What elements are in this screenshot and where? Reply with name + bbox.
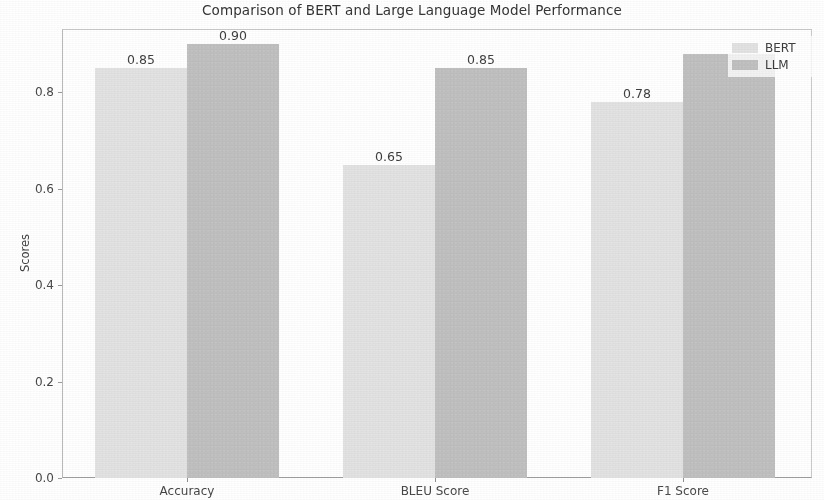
x-tick-label-f1-score: F1 Score <box>657 484 709 498</box>
x-tick-mark-accuracy <box>187 478 188 482</box>
bar-value-llm-accuracy: 0.90 <box>219 28 247 43</box>
legend-label-bert: BERT <box>765 41 796 55</box>
bar-llm-accuracy[interactable] <box>187 44 279 478</box>
y-tick-label-0: 0.0 <box>8 471 54 485</box>
y-tick-mark-0 <box>58 478 62 479</box>
bar-llm-bleu-score[interactable] <box>435 68 527 478</box>
y-tick-label-4: 0.8 <box>8 85 54 99</box>
x-tick-mark-f1-score <box>683 478 684 482</box>
figure-canvas: Comparison of BERT and Large Language Mo… <box>0 0 824 500</box>
y-axis-title: Scores <box>18 234 32 272</box>
x-tick-label-bleu-score: BLEU Score <box>401 484 470 498</box>
legend-swatch-llm-icon <box>732 60 758 70</box>
bar-value-llm-bleu-score: 0.85 <box>467 52 495 67</box>
y-tick-label-2: 0.4 <box>8 278 54 292</box>
y-tick-label-3: 0.6 <box>8 182 54 196</box>
bar-value-bert-bleu-score: 0.65 <box>375 149 403 164</box>
legend-item-llm[interactable]: LLM <box>732 56 812 73</box>
bar-bert-accuracy[interactable] <box>95 68 187 478</box>
bar-llm-f1-score[interactable] <box>683 54 775 478</box>
x-tick-mark-bleu-score <box>435 478 436 482</box>
x-tick-label-accuracy: Accuracy <box>160 484 215 498</box>
chart-title: Comparison of BERT and Large Language Mo… <box>0 2 824 18</box>
y-tick-label-1: 0.2 <box>8 375 54 389</box>
bar-value-bert-f1-score: 0.78 <box>623 86 651 101</box>
bar-bert-f1-score[interactable] <box>591 102 683 478</box>
bars-layer <box>62 29 812 478</box>
legend-swatch-bert-icon <box>732 43 758 53</box>
legend-item-bert[interactable]: BERT <box>732 39 812 56</box>
legend: BERT LLM <box>728 36 816 77</box>
legend-label-llm: LLM <box>765 58 789 72</box>
bar-value-bert-accuracy: 0.85 <box>127 52 155 67</box>
bar-bert-bleu-score[interactable] <box>343 165 435 478</box>
